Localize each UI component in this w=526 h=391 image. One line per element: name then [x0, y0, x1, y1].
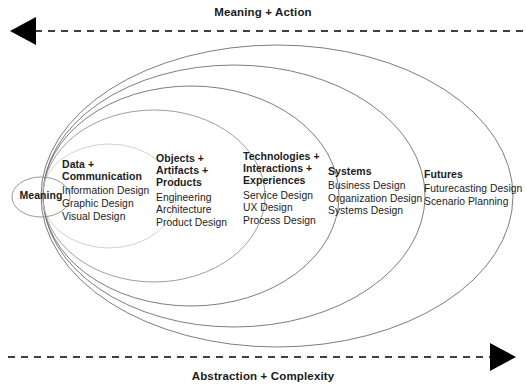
- cluster-item-list: Engineering Architecture Product Design: [156, 192, 227, 230]
- cluster-item: Information Design: [62, 185, 149, 198]
- cluster-heading: Futures: [424, 168, 522, 180]
- cluster-objects-artifacts-products: Objects + Artifacts + Products Engineeri…: [156, 152, 227, 229]
- cluster-item: Futurecasting Design: [424, 183, 522, 196]
- cluster-item: UX Design: [243, 202, 320, 215]
- cluster-item: Business Design: [328, 180, 422, 193]
- cluster-heading: Technologies + Interactions + Experience…: [243, 150, 320, 187]
- diagram-canvas: Meaning + Action Abstraction + Complexit…: [0, 0, 526, 391]
- core-label-meaning: Meaning: [13, 189, 69, 201]
- cluster-item: Architecture: [156, 204, 227, 217]
- cluster-futures: Futures Futurecasting Design Scenario Pl…: [424, 168, 522, 208]
- cluster-item: Systems Design: [328, 205, 422, 218]
- cluster-item: Service Design: [243, 190, 320, 203]
- cluster-heading: Systems: [328, 165, 422, 177]
- top-axis-label: Meaning + Action: [0, 6, 526, 18]
- cluster-systems: Systems Business Design Organization Des…: [328, 165, 422, 218]
- cluster-item: Scenario Planning: [424, 196, 522, 209]
- cluster-heading: Objects + Artifacts + Products: [156, 152, 227, 189]
- cluster-item: Graphic Design: [62, 198, 149, 211]
- cluster-item: Process Design: [243, 215, 320, 228]
- top-axis-arrow: [10, 17, 524, 45]
- cluster-item: Visual Design: [62, 211, 149, 224]
- cluster-item: Organization Design: [328, 193, 422, 206]
- cluster-item-list: Business Design Organization Design Syst…: [328, 180, 422, 218]
- cluster-item-list: Information Design Graphic Design Visual…: [62, 185, 149, 223]
- top-arrow-head-left: [10, 17, 36, 45]
- cluster-item-list: Service Design UX Design Process Design: [243, 190, 320, 228]
- cluster-item-list: Futurecasting Design Scenario Planning: [424, 183, 522, 208]
- cluster-item: Engineering: [156, 192, 227, 205]
- cluster-technologies-interactions-experiences: Technologies + Interactions + Experience…: [243, 150, 320, 227]
- bottom-axis-arrow: [8, 343, 516, 371]
- cluster-item: Product Design: [156, 217, 227, 230]
- cluster-heading: Data + Communication: [62, 158, 149, 182]
- bottom-arrow-head-right: [490, 343, 516, 371]
- bottom-axis-label: Abstraction + Complexity: [0, 370, 526, 382]
- cluster-data-communication: Data + Communication Information Design …: [62, 158, 149, 223]
